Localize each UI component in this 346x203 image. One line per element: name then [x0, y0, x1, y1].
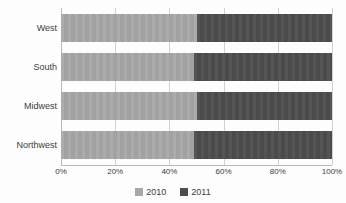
bar-segment-northwest-2010[interactable] — [61, 131, 194, 159]
bar-segment-south-2010[interactable] — [61, 53, 194, 81]
bar-row-midwest — [61, 92, 332, 120]
legend-swatch-2011 — [180, 188, 188, 196]
y-axis-label-0: West — [0, 14, 57, 42]
bar-row-northwest — [61, 131, 332, 159]
x-tick-label-20%: 20% — [107, 167, 123, 176]
bar-segment-midwest-2011[interactable] — [197, 92, 333, 120]
bar-segment-northwest-2011[interactable] — [194, 131, 332, 159]
gridline-100% — [332, 8, 333, 165]
y-axis-category-labels: West South Midwest Northwest — [0, 8, 57, 165]
bar-segment-midwest-2010[interactable] — [61, 92, 197, 120]
legend-item-2010[interactable]: 2010 — [135, 187, 166, 197]
bar-segment-west-2011[interactable] — [197, 14, 333, 42]
x-tick-label-60%: 60% — [216, 167, 232, 176]
x-axis-line — [61, 165, 332, 166]
bar-segment-south-2011[interactable] — [194, 53, 332, 81]
bar-row-south — [61, 53, 332, 81]
legend-label-2011: 2011 — [191, 187, 210, 197]
plot-area — [61, 8, 332, 165]
x-tick-label-0%: 0% — [55, 167, 67, 176]
bar-row-west — [61, 14, 332, 42]
x-tick-label-80%: 80% — [270, 167, 286, 176]
legend-label-2010: 2010 — [146, 187, 166, 197]
chart-legend: 2010 2011 — [0, 184, 346, 200]
legend-swatch-2010 — [135, 188, 143, 196]
x-axis-tick-labels: 0%20%40%60%80%100% — [61, 167, 332, 181]
y-axis-label-3: Northwest — [0, 131, 57, 159]
y-axis-label-2: Midwest — [0, 92, 57, 120]
bar-series-container — [61, 8, 332, 165]
legend-item-2011[interactable]: 2011 — [180, 187, 210, 197]
stacked-bar-chart: West South Midwest Northwest 0%20%40%60%… — [0, 0, 346, 203]
x-tick-label-40%: 40% — [161, 167, 177, 176]
y-axis-label-1: South — [0, 53, 57, 81]
bar-segment-west-2010[interactable] — [61, 14, 197, 42]
x-tick-label-100%: 100% — [322, 167, 342, 176]
